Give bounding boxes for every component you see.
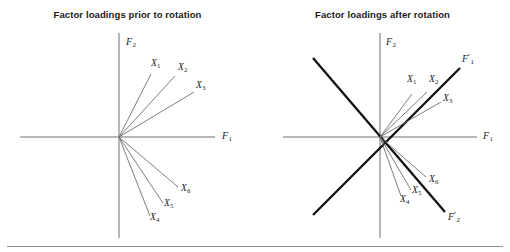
vector-label-x3: X3 — [196, 80, 206, 91]
axis-label-f1: F1 — [483, 130, 493, 143]
vector-X6 — [119, 137, 178, 187]
vector-label-x5: X5 — [164, 198, 174, 209]
axis-label-f2: F2 — [126, 36, 136, 49]
vector-label-x6: X6 — [181, 183, 191, 194]
vector-label-x1: X1 — [151, 58, 161, 69]
vector-label-x2: X2 — [178, 62, 188, 73]
vector-label-x1: X1 — [407, 74, 417, 85]
axis-label-f1-prime: F′1 — [462, 52, 474, 66]
figure-bottom-rule — [7, 246, 503, 247]
vector-label-x6: X6 — [429, 174, 439, 185]
rotated-axis-F2-prime — [313, 58, 445, 212]
axis-label-f1: F1 — [222, 130, 232, 143]
vector-label-x4: X4 — [150, 212, 160, 223]
factor-loading-figure: Factor loadings prior to rotation F2 F1 … — [0, 0, 510, 252]
vector-X5 — [380, 137, 411, 190]
panel-after-rotation: Factor loadings after rotation F2 F1 F′1… — [255, 0, 510, 252]
vector-label-x2: X2 — [429, 74, 439, 85]
vector-label-x5: X5 — [412, 185, 422, 196]
panel-prior-to-rotation: Factor loadings prior to rotation F2 F1 … — [0, 0, 255, 252]
axis-label-f2-prime: F′2 — [448, 210, 460, 224]
vector-X2 — [119, 76, 175, 137]
vector-label-x4: X4 — [400, 194, 410, 205]
axis-label-f2: F2 — [386, 36, 396, 49]
vector-label-x3: X3 — [443, 93, 453, 104]
plot-after-rotation — [255, 0, 510, 252]
rotated-axis-F1-prime — [313, 68, 460, 215]
